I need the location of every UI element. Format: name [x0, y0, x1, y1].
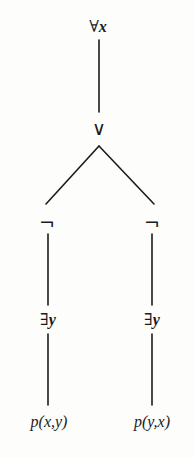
node-existential-quantifier-right: ∃y — [144, 312, 160, 328]
formula-parse-tree-figure: ∀x ∨ ¬ ¬ ∃y ∃y p(x,y) p(y,x) — [0, 0, 195, 458]
node-disjunction: ∨ — [92, 119, 106, 138]
negation-symbol: ¬ — [39, 212, 55, 234]
node-existential-quantifier-left: ∃y — [40, 312, 56, 328]
quantifier-symbol: ∃ — [40, 311, 49, 328]
edge-disjunction-neg-right — [99, 146, 154, 204]
node-negation-left: ¬ — [39, 214, 55, 233]
quantifier-variable: y — [49, 311, 56, 328]
edge-disjunction-neg-left — [46, 146, 99, 204]
node-atomic-predicate-left: p(x,y) — [31, 414, 68, 430]
node-atomic-predicate-right: p(y,x) — [134, 414, 170, 430]
quantifier-symbol: ∀ — [89, 18, 99, 35]
node-negation-right: ¬ — [144, 214, 160, 233]
negation-symbol: ¬ — [144, 212, 160, 234]
node-universal-quantifier-root: ∀x — [89, 19, 107, 35]
tree-edges-layer — [0, 0, 195, 458]
disjunction-symbol: ∨ — [92, 117, 106, 139]
quantifier-variable: x — [99, 18, 107, 35]
quantifier-variable: y — [153, 311, 160, 328]
quantifier-symbol: ∃ — [144, 311, 153, 328]
